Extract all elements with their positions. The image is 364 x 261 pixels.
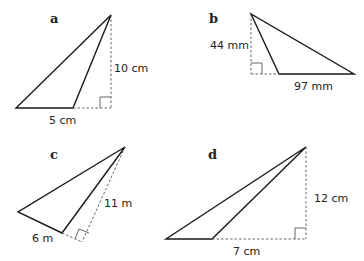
height-label-a: 10 cm	[114, 62, 148, 75]
triangle-b: b 44 mm 97 mm	[209, 11, 354, 93]
right-angle-marker-a	[100, 97, 111, 108]
part-label-b: b	[209, 11, 218, 26]
base-extension-c	[62, 233, 82, 242]
triangle-c: c 11 m 6 m	[18, 147, 132, 245]
base-label-b: 97 mm	[294, 80, 333, 93]
triangle-c-shape	[18, 147, 125, 233]
triangle-a-shape	[16, 15, 111, 108]
height-label-d: 12 cm	[314, 192, 348, 205]
base-label-a: 5 cm	[49, 114, 76, 127]
base-label-c: 6 m	[32, 232, 53, 245]
part-label-d: d	[208, 147, 217, 162]
triangle-a: a 10 cm 5 cm	[16, 11, 148, 127]
part-label-a: a	[50, 11, 59, 26]
base-label-d: 7 cm	[233, 245, 260, 258]
height-line-c	[82, 147, 125, 242]
triangle-b-shape	[251, 14, 354, 74]
part-label-c: c	[50, 147, 58, 162]
right-angle-marker-b	[251, 63, 262, 74]
height-label-c: 11 m	[104, 197, 132, 210]
height-label-b: 44 mm	[210, 39, 249, 52]
triangle-d: d 12 cm 7 cm	[166, 147, 348, 258]
triangle-d-shape	[166, 147, 306, 239]
triangles-diagram: a 10 cm 5 cm b 44 mm 97 mm c 11 m 6 m d …	[0, 0, 364, 261]
right-angle-marker-d	[295, 228, 306, 239]
